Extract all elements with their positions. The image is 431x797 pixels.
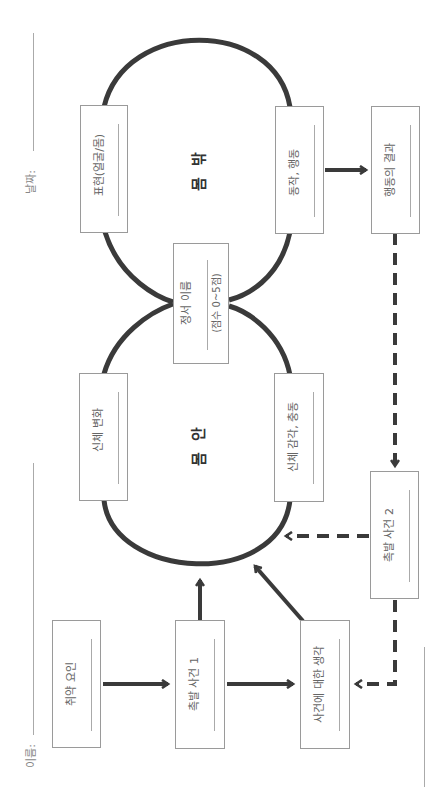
body-sensation-answer-line[interactable] <box>313 392 314 484</box>
inside-body-label: 몸 안 <box>187 424 208 466</box>
date-field-line[interactable] <box>33 33 34 151</box>
trigger-event-1-answer-line[interactable] <box>214 639 215 731</box>
emotion-score-text: (점수 0~5점) <box>208 273 223 332</box>
outside-body-label: 몸 밖 <box>187 149 208 191</box>
trigger-event-2-text: 촉발 사건 2 <box>380 508 396 562</box>
thoughts-text: 사건에 대한 생각 <box>310 646 326 723</box>
consequence-text: 행동의 결과 <box>381 143 397 197</box>
vulnerability-text: 취약 요인 <box>62 662 78 706</box>
inside-body-circle <box>104 500 290 564</box>
body-change-text: 신체 변화 <box>89 408 105 452</box>
body-sensation-text: 신체 감각, 충동 <box>284 402 300 473</box>
outside-body-circle <box>104 40 290 107</box>
emotion-name-text: 정서 이름 <box>177 281 193 325</box>
consequence-answer-line[interactable] <box>410 125 411 217</box>
name-label: 이름: <box>22 744 38 768</box>
date-label: 날짜: <box>22 170 38 194</box>
action-answer-line[interactable] <box>314 125 315 217</box>
name-field-line[interactable] <box>33 463 34 735</box>
margin-line <box>424 647 425 787</box>
thoughts-answer-line[interactable] <box>339 639 340 731</box>
expression-text: 표현(얼굴/몸) <box>90 134 106 196</box>
action-text: 동작, 행동 <box>285 149 301 196</box>
vulnerability-answer-line[interactable] <box>91 639 92 731</box>
expression-answer-line[interactable] <box>118 124 119 216</box>
body-change-answer-line[interactable] <box>118 392 119 484</box>
trigger-event-1-text: 촉발 사건 1 <box>185 657 201 711</box>
trigger-event-2-answer-line[interactable] <box>409 490 410 582</box>
